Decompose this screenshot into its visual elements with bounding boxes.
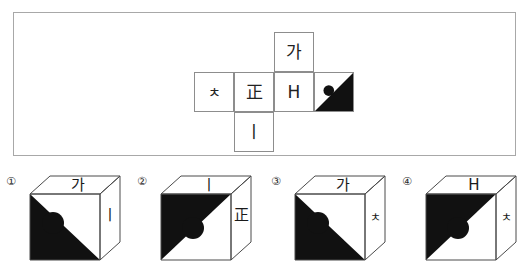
net-cell-top-label: 가 (286, 44, 302, 61)
option-2-top-face-label: ㅣ (202, 176, 216, 194)
net-cell-left-2-label: 正 (246, 84, 263, 101)
cube-diagram-lower-left: 가 ㅣ (22, 170, 126, 266)
option-2-right-face-label: 正 (234, 206, 249, 224)
cube-diagram-upper-left: ㅣ 正 (153, 170, 257, 266)
net-cell-bottom-label: ㅣ (246, 124, 262, 141)
option-3-cube: 가 ㅊ (287, 170, 391, 266)
answer-options: ① 가 ㅣ ② (0, 168, 529, 268)
net-cell-left-3-label: H (288, 84, 301, 101)
option-2-number: ② (137, 176, 147, 187)
option-1-cube: 가 ㅣ (22, 170, 126, 266)
answer-option-2[interactable]: ② ㅣ 正 (131, 168, 263, 268)
cube-net: 가 ㅊ 正 H ㅣ (194, 32, 354, 152)
net-cell-left-2: 正 (234, 72, 274, 112)
cube-diagram-lower-left: 가 ㅊ (287, 170, 391, 266)
option-3-top-face-label: 가 (336, 176, 350, 194)
option-1-right-face-label: ㅣ (103, 206, 117, 224)
option-1-top-face-label: 가 (71, 176, 85, 194)
option-4-cube: H ㅊ (418, 170, 522, 266)
net-cell-left-1: ㅊ (194, 72, 234, 112)
option-2-cube: ㅣ 正 (153, 170, 257, 266)
net-cell-left-1-label: ㅊ (208, 85, 221, 99)
black-triangle-upper-right-with-circle-icon (315, 73, 353, 111)
option-1-number: ① (6, 176, 16, 187)
net-cell-bottom: ㅣ (234, 112, 274, 152)
net-cell-top: 가 (274, 32, 314, 72)
answer-option-1[interactable]: ① 가 ㅣ (0, 168, 132, 268)
answer-option-4[interactable]: ④ H ㅊ (396, 168, 528, 268)
option-3-number: ③ (271, 176, 281, 187)
net-cell-left-4-marked (314, 72, 354, 112)
option-4-right-face-label: ㅊ (501, 211, 512, 225)
cube-diagram-upper-left: H ㅊ (418, 170, 522, 266)
option-4-top-face-label: H (468, 176, 479, 194)
option-3-right-face-label: ㅊ (370, 211, 381, 225)
net-cell-left-3: H (274, 72, 314, 112)
cube-net-panel: 가 ㅊ 正 H ㅣ (13, 12, 516, 156)
answer-option-3[interactable]: ③ 가 ㅊ (265, 168, 397, 268)
option-4-number: ④ (402, 176, 412, 187)
